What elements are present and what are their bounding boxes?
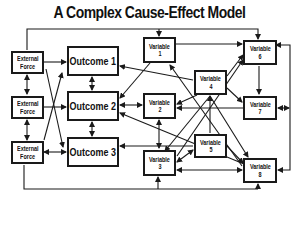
node-label: 1 <box>158 50 161 57</box>
node-label: Variable <box>149 156 170 163</box>
external-force-2: External Force <box>11 96 44 119</box>
outcome-2: Outcome 2 <box>67 91 119 121</box>
node-label: Outcome 1 <box>70 55 116 67</box>
node-label: 4 <box>209 83 212 90</box>
outcome-3: Outcome 3 <box>67 137 119 167</box>
node-label: Variable <box>250 163 271 170</box>
node-label: Outcome 3 <box>70 146 116 158</box>
node-label: 7 <box>258 108 261 115</box>
variable-3: Variable 3 <box>143 150 176 176</box>
node-label: 5 <box>209 146 212 153</box>
node-label: External <box>17 55 39 62</box>
node-label: 2 <box>158 106 161 113</box>
node-label: 3 <box>158 163 161 170</box>
node-label: 8 <box>258 171 261 178</box>
node-label: Variable <box>200 139 221 146</box>
node-label: Variable <box>250 45 271 52</box>
variable-4: Variable 4 <box>194 70 227 95</box>
variable-8: Variable 8 <box>243 158 277 183</box>
variable-2: Variable 2 <box>143 93 176 119</box>
node-label: External <box>17 145 39 152</box>
node-label: Force <box>20 63 35 70</box>
node-label: Variable <box>149 99 170 106</box>
node-label: Force <box>20 153 35 160</box>
node-label: Variable <box>200 75 221 82</box>
variable-6: Variable 6 <box>243 40 277 65</box>
variable-5: Variable 5 <box>194 134 227 158</box>
outcome-1: Outcome 1 <box>67 46 119 76</box>
node-label: 6 <box>258 53 261 60</box>
external-force-3: External Force <box>11 141 44 164</box>
external-force-1: External Force <box>11 51 44 74</box>
node-label: Outcome 2 <box>70 100 116 112</box>
node-label: Variable <box>149 43 170 50</box>
node-label: Force <box>20 108 35 115</box>
variable-7: Variable 7 <box>243 96 277 120</box>
node-label: External <box>17 100 39 107</box>
variable-1: Variable 1 <box>143 37 176 63</box>
node-label: Variable <box>250 101 271 108</box>
